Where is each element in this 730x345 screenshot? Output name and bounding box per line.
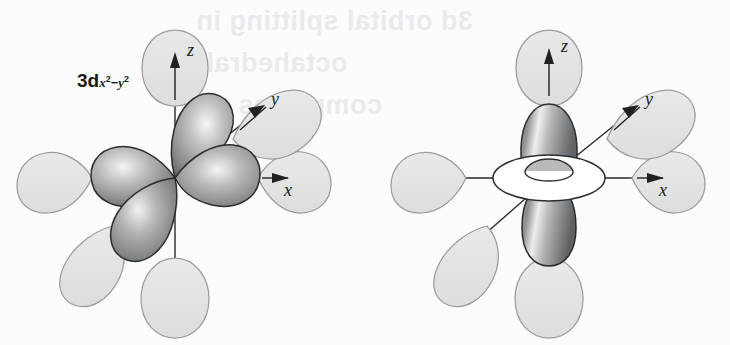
axis-label-y: y (271, 89, 279, 110)
ligand-lobe-plus-x (632, 152, 705, 213)
diagram-3d-x2-y2 (0, 0, 365, 345)
orbital-figure: 3d orbital splitting in octahedral compl… (0, 0, 730, 345)
orbital-label-base: 3d (77, 70, 99, 91)
ligand-lobe-minus-z (141, 258, 209, 338)
axis-label-x: x (284, 180, 292, 201)
ligand-lobe-minus-y (434, 226, 499, 307)
orbital-label-sub-y-exp: 2 (124, 74, 129, 84)
ligand-lobe-minus-x (391, 152, 466, 213)
ligand-lobe-minus-x (17, 152, 92, 213)
panel-3d-z2: 3dz2 z x y (365, 0, 730, 345)
axis-label-x: x (659, 180, 667, 201)
axis-label-z: z (561, 36, 568, 57)
ligand-lobe-minus-z (515, 258, 583, 338)
diagram-3d-z2 (365, 0, 730, 345)
axis-label-y: y (645, 89, 653, 110)
ligand-lobe-plus-x (258, 152, 331, 213)
orbital-label-3d-x2-y2: 3dx2−y2 (77, 70, 129, 92)
panel-3d-x2-y2: 3dx2−y2 z x y (0, 0, 365, 345)
axis-label-z: z (187, 40, 194, 61)
orbital-torus (493, 155, 605, 201)
